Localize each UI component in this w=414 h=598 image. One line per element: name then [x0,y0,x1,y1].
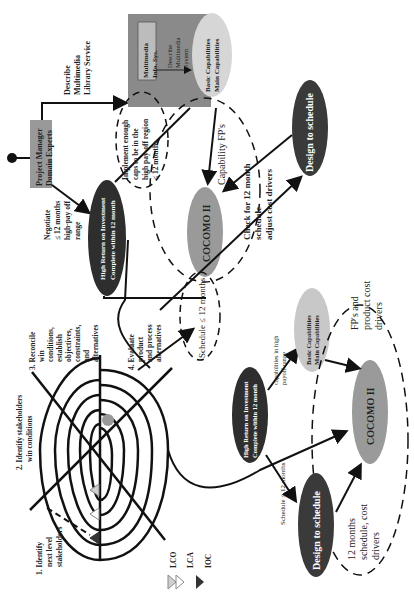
pm-line1: Project Manager [35,128,44,186]
svg-text:Design to schedule: Design to schedule [304,93,315,172]
svg-text:constraints,: constraints, [73,325,82,362]
svg-text:capabilities in high: capabilities in high [272,335,279,385]
legend-ioc-icon [196,575,204,589]
svg-text:Main Capabilities: Main Capabilities [213,38,221,92]
svg-text:High Return on Investment: High Return on Investment [99,197,107,280]
svg-text:product cost: product cost [361,281,372,330]
hroi-ellipse-bottom [232,367,268,463]
capabilities-ellipse-bottom [294,288,330,372]
svg-text:Basic Capabilities: Basic Capabilities [204,38,212,92]
capabilities-ellipse-top [192,13,232,97]
svg-text:FP's and: FP's and [349,296,360,330]
svg-text:Schedule ≤ 12 months: Schedule ≤ 12 months [197,277,207,358]
spiral-cocomo-diagram: Project Manager Domain Experts Describe … [0,0,414,598]
svg-text:win conditions: win conditions [25,415,34,462]
svg-text:stakeholders: stakeholders [55,527,64,568]
svg-text:payoff range: payoff range [280,352,287,385]
svg-text:Basic Capabilities: Basic Capabilities [305,315,312,365]
legend: LCO LCA IOC [168,552,213,589]
svg-text:IOC: IOC [204,554,213,568]
svg-text:schedule: schedule [253,207,263,240]
svg-text:objectives,: objectives, [64,328,73,362]
svg-text:Capability FP's: Capability FP's [216,124,227,185]
svg-text:and process: and process [145,324,154,362]
lca-marker-icon [90,508,99,520]
svg-text:Describe: Describe [166,45,173,68]
svg-text:product: product [136,336,145,362]
svg-text:System: System [182,49,189,68]
spiral-center-marker [102,414,114,426]
svg-text:Describe: Describe [63,65,72,95]
svg-text:COCOMO II: COCOMO II [201,204,212,262]
svg-text:Main Capabilities: Main Capabilities [313,315,320,365]
svg-text:next level: next level [45,537,54,567]
svg-text:≤ 12 months: ≤ 12 months [53,201,62,240]
svg-text:3. Reconcile: 3. Reconcile [28,331,37,370]
svg-text:4. Evaluate: 4. Evaluate [127,333,136,370]
legend-lca-icon [176,575,184,589]
svg-text:Implement enough: Implement enough [121,119,130,180]
svg-text:Negotiate: Negotiate [43,209,52,240]
svg-text:drivers: drivers [370,532,381,560]
svg-text:LCO: LCO [169,552,178,568]
svg-text:conditions,: conditions, [46,327,55,362]
svg-text:Multimedia: Multimedia [73,55,82,95]
svg-text:12 months: 12 months [346,518,357,560]
hroi-ellipse-top [88,180,126,296]
svg-text:range: range [73,221,82,240]
svg-text:win: win [37,350,46,363]
svg-text:establish: establish [55,333,64,362]
svg-text:COCOMO II: COCOMO II [365,387,376,445]
svg-text:≤ 12 months: ≤ 12 months [151,141,160,180]
svg-text:drivers: drivers [373,302,384,330]
svg-text:high-pay off: high-pay off [63,201,72,240]
svg-text:Multimedia: Multimedia [142,43,150,78]
svg-text:Multimedia: Multimedia [174,38,181,68]
svg-text:Complete within 12 month: Complete within 12 month [251,384,258,458]
svg-text:alternatives: alternatives [154,324,163,362]
svg-text:2. Identify stakeholders: 2. Identify stakeholders [15,395,24,470]
svg-text:and: and [82,349,91,362]
svg-text:Library Service: Library Service [83,41,92,95]
pm-line2: Domain Experts [45,130,54,186]
svg-text:Info. Sys.: Info. Sys. [151,50,159,78]
svg-text:Schedule ≤ 12 months: Schedule ≤ 12 months [279,462,287,525]
svg-text:1. Identify: 1. Identify [35,542,44,575]
svg-text:Design to schedule: Design to schedule [311,491,322,570]
svg-text:schedule, cost: schedule, cost [358,504,369,560]
legend-lco-icon [168,575,176,589]
svg-text:caps to be in the: caps to be in the [131,128,140,180]
svg-text:alternatives: alternatives [91,324,100,362]
svg-text:LCA: LCA [186,552,195,568]
svg-text:high pay-off region: high pay-off region [141,118,150,180]
svg-text:High Return on Investment: High Return on Investment [242,381,249,458]
svg-text:Complete within 12 month: Complete within 12 month [109,200,117,280]
